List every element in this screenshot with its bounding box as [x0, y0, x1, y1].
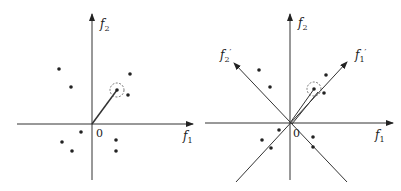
right-vector-b — [292, 92, 318, 124]
data-point — [324, 73, 328, 77]
data-point — [60, 140, 64, 144]
data-point — [277, 128, 281, 132]
data-point — [69, 85, 73, 89]
data-point — [268, 85, 272, 89]
highlighted-data-point — [115, 88, 119, 92]
right-rotated-axis-2-label: f2′ — [219, 47, 232, 64]
right-panel: f2 f1 f1′ f2′ 0 — [205, 14, 393, 182]
data-point — [260, 138, 264, 142]
right-x-axis-label: f1 — [374, 128, 385, 144]
data-point — [322, 91, 326, 95]
data-point — [311, 135, 315, 139]
data-point — [57, 67, 61, 71]
left-vector — [92, 90, 117, 124]
right-rotated-axis-1-label: f1′ — [354, 47, 367, 64]
left-panel: f2 f1 0 — [17, 14, 193, 180]
data-point — [126, 93, 130, 97]
left-origin-label: 0 — [96, 127, 103, 140]
data-point — [114, 138, 118, 142]
data-point — [128, 72, 132, 76]
left-x-axis-label: f1 — [182, 129, 193, 145]
data-point — [70, 149, 74, 153]
left-points — [57, 67, 132, 153]
data-point — [311, 145, 315, 149]
right-vector-a — [290, 89, 314, 123]
right-origin-label: 0 — [293, 127, 300, 140]
highlighted-data-point — [312, 87, 316, 91]
data-point — [114, 149, 118, 153]
right-y-axis-label: f2 — [297, 16, 308, 32]
data-point — [257, 68, 261, 72]
data-point — [79, 130, 83, 134]
diagram-canvas: f2 f1 0 f2 f1 f1′ f2′ 0 — [0, 0, 401, 191]
left-y-axis-label: f2 — [99, 17, 110, 33]
data-point — [269, 146, 273, 150]
